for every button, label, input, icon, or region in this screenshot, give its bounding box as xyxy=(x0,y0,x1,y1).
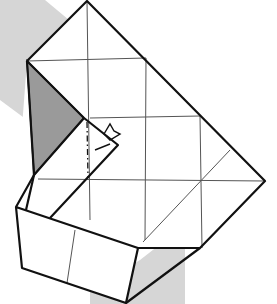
origami-diagram xyxy=(0,0,277,304)
folded-sheet xyxy=(16,1,265,303)
